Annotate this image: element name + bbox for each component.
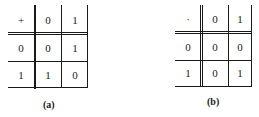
thick-vertical-divider (34, 5, 36, 89)
double-horizontal-divider (8, 34, 88, 35)
horizontal-divider (175, 86, 252, 87)
operator-cell: + (8, 7, 34, 33)
table-cell: 0 (35, 35, 61, 61)
table-cell: 0 (227, 34, 253, 60)
vertical-divider (228, 5, 229, 86)
horizontal-divider (8, 87, 88, 88)
double-vertical-divider (200, 5, 201, 87)
double-horizontal-divider (175, 31, 252, 32)
vertical-divider (87, 5, 88, 87)
table-cell: 0 (202, 34, 228, 60)
caption-b: (b) (207, 96, 219, 107)
header-cell: 0 (202, 6, 228, 32)
table-cell: 0 (202, 60, 228, 86)
header-cell: 1 (227, 6, 253, 32)
row-label: 0 (175, 34, 201, 60)
header-cell: 0 (35, 7, 61, 33)
horizontal-divider (8, 61, 88, 62)
table-cell: 1 (35, 62, 61, 88)
double-vertical-divider (202, 5, 203, 87)
multiplication-table: · 0 1 0 0 0 1 0 1 (175, 5, 252, 87)
double-horizontal-divider (175, 33, 252, 34)
vertical-divider (251, 5, 252, 86)
caption-a: (a) (43, 99, 55, 110)
operator-cell: · (175, 6, 201, 32)
header-cell: 1 (62, 7, 88, 33)
table-cell: 1 (227, 60, 253, 86)
horizontal-divider (175, 60, 252, 61)
row-label: 1 (175, 60, 201, 86)
double-horizontal-divider (8, 32, 88, 33)
vertical-divider (61, 5, 62, 87)
addition-table: + 0 1 0 0 1 1 1 0 (8, 5, 88, 89)
table-cell: 0 (62, 62, 88, 88)
table-cell: 1 (62, 35, 88, 61)
row-label: 0 (8, 35, 34, 61)
row-label: 1 (8, 62, 34, 88)
